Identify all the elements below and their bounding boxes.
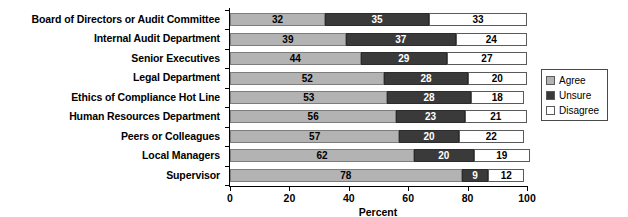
bar-segment-unsure: 37 <box>346 33 456 46</box>
y-tick-mark <box>225 166 230 167</box>
category-label: Human Resources Department <box>69 107 220 126</box>
bar-segment-agree: 53 <box>230 91 387 104</box>
y-tick-mark <box>225 146 230 147</box>
legend-item-unsure: Unsure <box>546 88 603 103</box>
legend-swatch-unsure <box>546 91 555 100</box>
y-tick-mark <box>225 127 230 128</box>
bar-segment-agree: 78 <box>230 169 462 182</box>
y-tick-mark <box>225 49 230 50</box>
legend-label-disagree: Disagree <box>559 105 599 116</box>
category-label: Local Managers <box>142 146 220 165</box>
x-tick-mark <box>408 187 409 191</box>
plot-area: 3235333937244429275228205328185623215720… <box>230 10 527 185</box>
bar-row: 622019 <box>230 149 527 162</box>
stacked-bar-chart: Board of Directors or Audit CommitteeInt… <box>0 0 628 217</box>
category-label: Peers or Colleagues <box>121 127 220 146</box>
category-label: Internal Audit Department <box>94 29 220 48</box>
bar-segment-unsure: 9 <box>462 169 489 182</box>
x-tick-label: 60 <box>402 192 414 204</box>
bar-segment-agree: 32 <box>230 13 325 26</box>
bar-segment-unsure: 28 <box>387 91 470 104</box>
bar-row: 323533 <box>230 13 527 26</box>
legend-swatch-agree <box>546 76 555 85</box>
bar-segment-unsure: 29 <box>361 52 447 65</box>
bar-row: 393724 <box>230 33 527 46</box>
bar-segment-agree: 39 <box>230 33 346 46</box>
x-tick-label: 40 <box>343 192 355 204</box>
bar-segment-unsure: 28 <box>384 72 467 85</box>
bar-segment-disagree: 18 <box>471 91 524 104</box>
x-tick-mark <box>230 187 231 191</box>
legend-label-agree: Agree <box>559 75 586 86</box>
bar-row: 572022 <box>230 130 527 143</box>
bar-segment-agree: 57 <box>230 130 399 143</box>
x-tick-mark <box>289 187 290 191</box>
legend-swatch-disagree <box>546 106 555 115</box>
category-label: Board of Directors or Audit Committee <box>32 10 220 29</box>
x-tick-label: 80 <box>462 192 474 204</box>
x-tick-mark <box>527 187 528 191</box>
bar-segment-disagree: 19 <box>474 149 530 162</box>
bar-row: 522820 <box>230 72 527 85</box>
bar-segment-agree: 56 <box>230 110 396 123</box>
bar-segment-disagree: 33 <box>429 13 527 26</box>
bar-segment-disagree: 24 <box>456 33 527 46</box>
legend-label-unsure: Unsure <box>559 90 591 101</box>
y-tick-mark <box>225 68 230 69</box>
category-label: Senior Executives <box>131 49 220 68</box>
x-axis-title: Percent <box>359 206 398 217</box>
legend-item-disagree: Disagree <box>546 103 603 118</box>
bar-row: 562321 <box>230 110 527 123</box>
x-tick-mark <box>349 187 350 191</box>
bar-row: 532818 <box>230 91 527 104</box>
bar-segment-disagree: 27 <box>447 52 527 65</box>
bar-segment-disagree: 12 <box>488 169 524 182</box>
y-tick-mark <box>225 10 230 11</box>
chart-legend: Agree Unsure Disagree <box>541 69 608 121</box>
bar-segment-agree: 44 <box>230 52 361 65</box>
bar-segment-agree: 52 <box>230 72 384 85</box>
bar-segment-unsure: 20 <box>414 149 473 162</box>
x-tick-label: 20 <box>284 192 296 204</box>
legend-item-agree: Agree <box>546 73 603 88</box>
category-label: Supervisor <box>166 166 220 185</box>
x-axis-line <box>229 186 528 187</box>
bar-segment-agree: 62 <box>230 149 414 162</box>
bar-row: 442927 <box>230 52 527 65</box>
x-tick-mark <box>468 187 469 191</box>
y-tick-mark <box>225 185 230 186</box>
category-label: Ethics of Compliance Hot Line <box>71 88 220 107</box>
x-tick-label: 0 <box>227 192 233 204</box>
category-axis-labels: Board of Directors or Audit CommitteeInt… <box>0 10 220 185</box>
y-tick-mark <box>225 29 230 30</box>
bar-segment-disagree: 22 <box>459 130 524 143</box>
bar-row: 78912 <box>230 169 527 182</box>
y-tick-mark <box>225 107 230 108</box>
bar-segment-unsure: 23 <box>396 110 464 123</box>
bar-segment-disagree: 20 <box>468 72 527 85</box>
bar-segment-unsure: 20 <box>399 130 458 143</box>
bar-segment-disagree: 21 <box>465 110 527 123</box>
x-tick-label: 100 <box>518 192 536 204</box>
category-label: Legal Department <box>133 68 220 87</box>
y-tick-mark <box>225 88 230 89</box>
bar-segment-unsure: 35 <box>325 13 429 26</box>
